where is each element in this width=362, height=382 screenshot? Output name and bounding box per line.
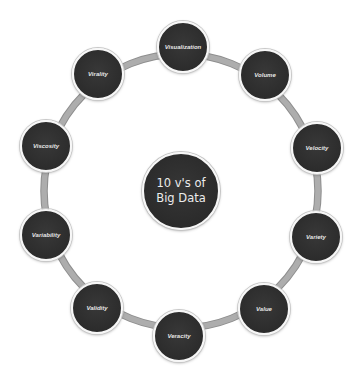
node-label: Value: [256, 306, 272, 312]
node-label: Viscosity: [33, 143, 59, 149]
node-label: Variety: [306, 234, 326, 240]
node-veracity: Veracity: [153, 310, 205, 362]
center-title-node: 10 v's of Big Data: [142, 152, 220, 230]
node-label: Volume: [254, 72, 275, 78]
node-label: Variability: [32, 232, 60, 238]
node-label: Visualization: [165, 44, 201, 50]
node-label: Veracity: [167, 333, 190, 339]
node-volume: Volume: [239, 49, 291, 101]
node-value: Value: [238, 283, 290, 335]
center-title-line-1: 10 v's of: [157, 176, 206, 191]
node-validity: Validity: [71, 282, 123, 334]
big-data-diagram: Visualization Volume Velocity Variety Va…: [0, 0, 362, 382]
node-visualization: Visualization: [157, 21, 209, 73]
node-viscosity: Viscosity: [20, 120, 72, 172]
node-variability: Variability: [20, 209, 72, 261]
node-variety: Variety: [290, 211, 342, 263]
node-velocity: Velocity: [291, 122, 343, 174]
node-label: Validity: [86, 305, 107, 311]
center-title-line-2: Big Data: [156, 191, 206, 206]
node-label: Velocity: [306, 145, 329, 151]
node-label: Virality: [88, 71, 108, 77]
node-virality: Virality: [72, 48, 124, 100]
